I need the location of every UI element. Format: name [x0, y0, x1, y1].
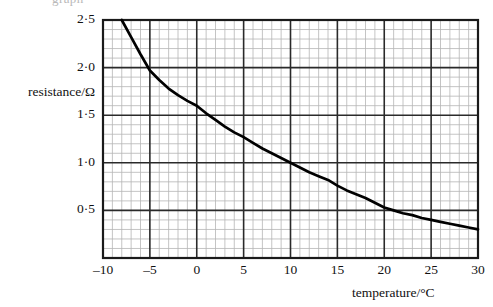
x-tick-label: –5 [130, 262, 170, 278]
x-tick-label: 25 [411, 262, 451, 278]
y-axis-label: resistance/Ω [28, 84, 95, 100]
x-tick-label: 30 [458, 262, 493, 278]
x-tick-label: 20 [364, 262, 404, 278]
y-tick-label: 2·0 [55, 59, 95, 75]
x-tick-label: 15 [317, 262, 357, 278]
x-tick-label: –10 [83, 262, 123, 278]
x-tick-label: 10 [271, 262, 311, 278]
x-axis-label: temperature/°C [352, 285, 435, 301]
x-tick-label: 0 [177, 262, 217, 278]
y-tick-label: 1·0 [55, 154, 95, 170]
y-tick-label: 0·5 [55, 201, 95, 217]
y-tick-label: 2·5 [55, 11, 95, 27]
y-tick-label: 1·5 [55, 106, 95, 122]
x-tick-label: 5 [224, 262, 264, 278]
resistance-temperature-figure: graph resistance/Ω temperature/°C –10–50… [0, 0, 493, 307]
